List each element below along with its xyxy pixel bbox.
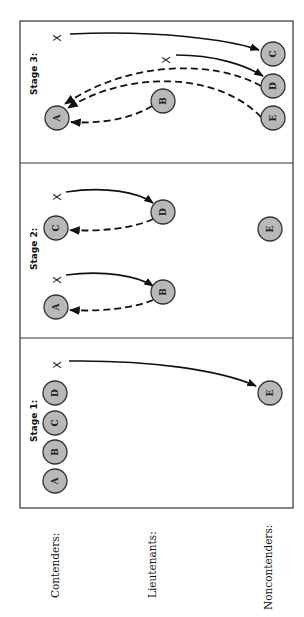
svg-text:A: A — [51, 302, 61, 311]
node-c: C — [261, 42, 285, 66]
x-mark: X — [51, 34, 64, 42]
svg-text:C: C — [50, 419, 60, 426]
svg-text:A: A — [52, 113, 62, 122]
edge-x-to-e — [69, 361, 256, 386]
node-d: D — [151, 200, 175, 224]
x-mark: X — [51, 361, 64, 369]
x-mark: X — [51, 193, 64, 201]
node-a: A — [44, 295, 68, 319]
x-mark: X — [51, 276, 64, 284]
node-e: E — [261, 106, 285, 130]
svg-text:C: C — [51, 224, 61, 231]
svg-text:C: C — [268, 50, 278, 57]
edge-x-to-b — [66, 273, 153, 286]
svg-text:D: D — [158, 208, 168, 216]
stage-1-label: Stage 1: — [29, 400, 39, 442]
svg-text:D: D — [268, 82, 278, 90]
svg-text:A: A — [50, 476, 60, 485]
row-label-lieutenants: Lieutenants: — [146, 531, 158, 598]
node-c: C — [44, 216, 68, 240]
edge-x-to-d — [176, 55, 263, 76]
node-d: D — [43, 381, 67, 405]
row-label-noncontenders: Noncontenders: — [262, 525, 274, 610]
node-a: A — [43, 469, 67, 493]
edge-b-to-a — [71, 106, 152, 122]
edge-x-to-c — [70, 33, 259, 50]
node-b: B — [43, 440, 67, 464]
svg-text:D: D — [50, 389, 60, 397]
stage-diagram: Stage 3: X X A B C D E Stage 2: X X A C … — [0, 0, 304, 617]
node-e: E — [258, 217, 282, 241]
node-d: D — [261, 74, 285, 98]
edge-d-to-c — [70, 219, 153, 231]
svg-text:E: E — [268, 114, 278, 121]
svg-text:E: E — [265, 225, 275, 232]
stage-3-panel: Stage 3: X X A B C D E — [29, 33, 285, 130]
node-c: C — [43, 411, 67, 435]
stage-3-label: Stage 3: — [29, 53, 39, 95]
row-labels: Contenders: Lieutenants: Noncontenders: — [49, 525, 274, 610]
node-e: E — [258, 381, 282, 405]
stage-1-panel: Stage 1: X A B C D E — [29, 361, 282, 493]
svg-text:B: B — [50, 448, 60, 456]
edge-b-to-a — [70, 300, 153, 311]
node-b: B — [151, 89, 175, 113]
svg-text:B: B — [158, 288, 168, 296]
row-label-contenders: Contenders: — [49, 533, 61, 598]
stage-2-label: Stage 2: — [29, 228, 39, 270]
node-a: A — [45, 106, 69, 130]
stage-2-panel: Stage 2: X X A C B D E — [29, 190, 282, 319]
svg-text:B: B — [158, 97, 168, 105]
edge-x-to-d — [66, 190, 153, 203]
node-b: B — [151, 280, 175, 304]
svg-text:E: E — [265, 389, 275, 396]
x-mark: X — [160, 56, 173, 64]
